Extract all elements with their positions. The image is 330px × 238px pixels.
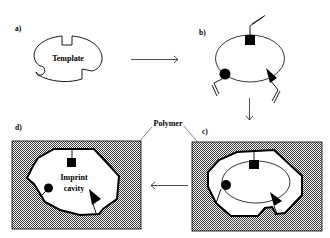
arrow-c-to-d: [151, 182, 188, 189]
circle-monomer: [220, 69, 231, 80]
panel-b: b): [199, 16, 285, 104]
circle-site-c: [221, 180, 231, 190]
panel-c-label: c): [202, 127, 208, 136]
panel-a-label: a): [15, 24, 22, 33]
square-site-c: [249, 160, 259, 169]
template-label: Template: [52, 54, 84, 63]
arrow-b-to-c: [246, 98, 253, 120]
panel-d: d) Imprint cavity: [12, 123, 141, 229]
square-monomer: [245, 35, 255, 45]
panel-c: c): [192, 127, 322, 231]
triangle-monomer: [266, 68, 277, 83]
polymer-callout: Polymer: [139, 119, 200, 145]
panel-b-label: b): [199, 28, 206, 37]
vinyl-group-left: [212, 79, 222, 96]
vinyl-group-top: [250, 16, 265, 36]
polymer-label: Polymer: [154, 119, 183, 128]
vinyl-group-right: [271, 81, 280, 103]
arrow-a-to-b: [131, 56, 178, 63]
molecular-imprinting-diagram: a) Template b) Polymer c): [0, 0, 330, 238]
panel-a: a) Template: [15, 24, 102, 82]
square-site-d: [67, 158, 76, 167]
imprint-cavity-label-line2: cavity: [64, 184, 84, 193]
panel-d-label: d): [15, 123, 22, 132]
imprint-cavity-label-line1: Imprint: [60, 173, 87, 182]
